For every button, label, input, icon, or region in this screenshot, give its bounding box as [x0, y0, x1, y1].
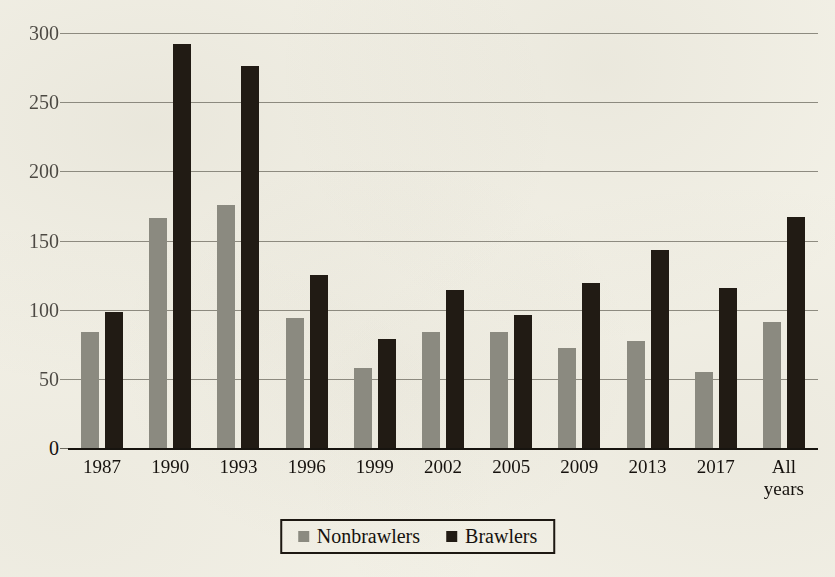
bar-nonbrawlers-2013: [627, 341, 645, 448]
y-axis-tick-label: 300: [29, 23, 59, 43]
bar-brawlers-2002: [446, 290, 464, 448]
y-axis-tick-label: 200: [29, 161, 59, 181]
x-axis-tick-label: 2002: [411, 456, 475, 478]
bar-nonbrawlers-1993: [217, 205, 235, 448]
plot-area: 050100150200250300 198719901993199619992…: [68, 33, 818, 448]
x-axis-tick-label: 1990: [138, 456, 202, 478]
bar-nonbrawlers-1987: [81, 332, 99, 448]
y-axis-tick-mark: [60, 241, 68, 242]
bar-group: 1996: [280, 33, 334, 448]
bar-brawlers-2017: [719, 288, 737, 448]
chart-legend: Nonbrawlers Brawlers: [280, 519, 556, 554]
y-axis-tick-mark: [60, 171, 68, 172]
bar-group: 1990: [143, 33, 197, 448]
bar-nonbrawlers-1990: [149, 218, 167, 448]
bar-nonbrawlers-2002: [422, 332, 440, 448]
bar-brawlers-1999: [378, 339, 396, 448]
bar-brawlers-1993: [241, 66, 259, 448]
bar-nonbrawlers-2005: [490, 332, 508, 448]
grouped-bar-chart: 050100150200250300 198719901993199619992…: [0, 0, 835, 577]
x-axis-tick-label: 1996: [275, 456, 339, 478]
bar-group: 2017: [689, 33, 743, 448]
x-axis-tick-label: 2009: [547, 456, 611, 478]
bar-brawlers-2013: [651, 250, 669, 448]
bar-nonbrawlers-1996: [286, 318, 304, 448]
bar-group: 1999: [348, 33, 402, 448]
y-axis-tick-label: 100: [29, 300, 59, 320]
y-axis-tick-mark: [60, 379, 68, 380]
y-axis-tick-label: 0: [49, 438, 59, 458]
x-axis-tick-label: 1987: [70, 456, 134, 478]
bar-group: 1993: [211, 33, 265, 448]
x-axis-tick-label: 2013: [616, 456, 680, 478]
x-axis-line: 0: [68, 448, 818, 450]
bar-group: All years: [757, 33, 811, 448]
bar-groups: 1987199019931996199920022005200920132017…: [68, 33, 818, 448]
bar-group: 2002: [416, 33, 470, 448]
x-axis-tick-label: 2017: [684, 456, 748, 478]
bar-nonbrawlers-1999: [354, 368, 372, 448]
x-axis-tick-label: 1993: [206, 456, 270, 478]
bar-nonbrawlers-2009: [558, 348, 576, 448]
x-axis-tick-label: 2005: [479, 456, 543, 478]
y-axis-tick-mark: [60, 102, 68, 103]
y-axis-tick-label: 150: [29, 231, 59, 251]
bar-group: 1987: [75, 33, 129, 448]
bar-nonbrawlers-All-years: [763, 322, 781, 448]
bar-brawlers-1996: [310, 275, 328, 448]
bar-brawlers-2005: [514, 315, 532, 448]
y-axis-tick-label: 250: [29, 92, 59, 112]
x-axis-tick-label: 1999: [343, 456, 407, 478]
y-axis-tick-mark: [60, 310, 68, 311]
x-axis-tick-label: All years: [752, 456, 816, 501]
y-axis-tick-label: 50: [39, 369, 59, 389]
bar-group: 2013: [621, 33, 675, 448]
bar-brawlers-1990: [173, 44, 191, 448]
legend-label-brawlers: Brawlers: [465, 526, 537, 546]
bar-group: 2009: [552, 33, 606, 448]
bar-nonbrawlers-2017: [695, 372, 713, 448]
black-square-swatch-icon: [446, 531, 457, 542]
legend-entry-nonbrawlers: Nonbrawlers: [298, 526, 420, 546]
gray-square-swatch-icon: [298, 531, 309, 542]
y-axis-tick-mark: [60, 33, 68, 34]
legend-label-nonbrawlers: Nonbrawlers: [317, 526, 420, 546]
legend-entry-brawlers: Brawlers: [446, 526, 537, 546]
bar-group: 2005: [484, 33, 538, 448]
bar-brawlers-2009: [582, 283, 600, 448]
bar-brawlers-1987: [105, 312, 123, 448]
y-axis-tick-mark: [60, 448, 68, 449]
bar-brawlers-All-years: [787, 217, 805, 448]
